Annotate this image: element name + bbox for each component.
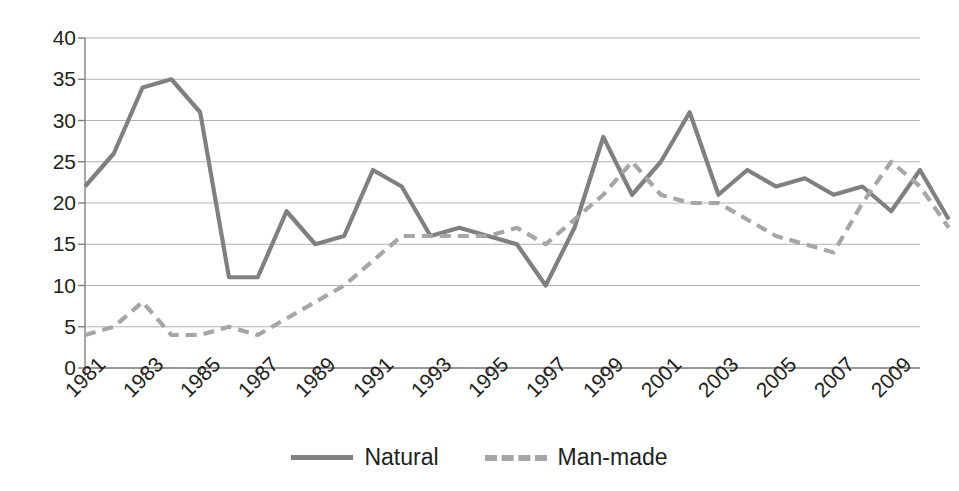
x-tick-label: 1993 (407, 353, 455, 401)
legend-item[interactable]: Man-made (485, 446, 668, 469)
x-axis-tick-labels: 1981198319851987198919911993199519971999… (0, 0, 959, 491)
legend-item[interactable]: Natural (291, 446, 438, 469)
legend-label: Man-made (558, 446, 668, 469)
x-tick-label: 1991 (349, 353, 397, 401)
x-tick-label: 1981 (61, 353, 109, 401)
x-tick-label: 2001 (637, 353, 685, 401)
line-chart: 0510152025303540 19811983198519871989199… (0, 0, 959, 491)
legend-swatch-man-made (485, 455, 547, 461)
x-tick-label: 2009 (867, 353, 915, 401)
legend-label: Natural (364, 446, 438, 469)
x-tick-label: 1983 (119, 353, 167, 401)
x-tick-label: 2003 (694, 353, 742, 401)
x-tick-label: 2007 (810, 353, 858, 401)
x-tick-label: 2005 (752, 353, 800, 401)
x-tick-label: 1999 (579, 353, 627, 401)
chart-legend: NaturalMan-made (0, 446, 959, 469)
x-tick-label: 1995 (464, 353, 512, 401)
x-tick-label: 1997 (522, 353, 570, 401)
x-tick-label: 1989 (291, 353, 339, 401)
x-tick-label: 1987 (234, 353, 282, 401)
legend-swatch-natural (291, 455, 353, 460)
x-tick-label: 1985 (176, 353, 224, 401)
